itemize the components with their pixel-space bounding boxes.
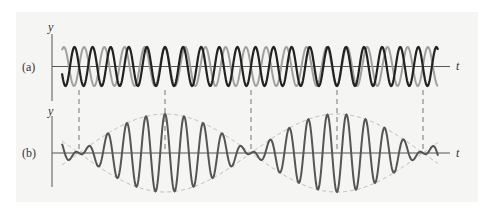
- panel-a-label: (a): [22, 60, 35, 74]
- panel-a-y-label: y: [47, 20, 54, 34]
- panel-b: y t (b): [22, 104, 460, 192]
- panel-b-label: (b): [22, 146, 36, 160]
- panel-b-y-label: y: [47, 104, 54, 118]
- panel-a-t-label: t: [456, 59, 460, 73]
- panel-a: y t (a): [22, 20, 460, 101]
- beats-figure: y t (a) y t (b): [0, 0, 490, 209]
- panel-b-envelope-lower: [62, 153, 438, 192]
- panel-b-t-label: t: [456, 146, 460, 160]
